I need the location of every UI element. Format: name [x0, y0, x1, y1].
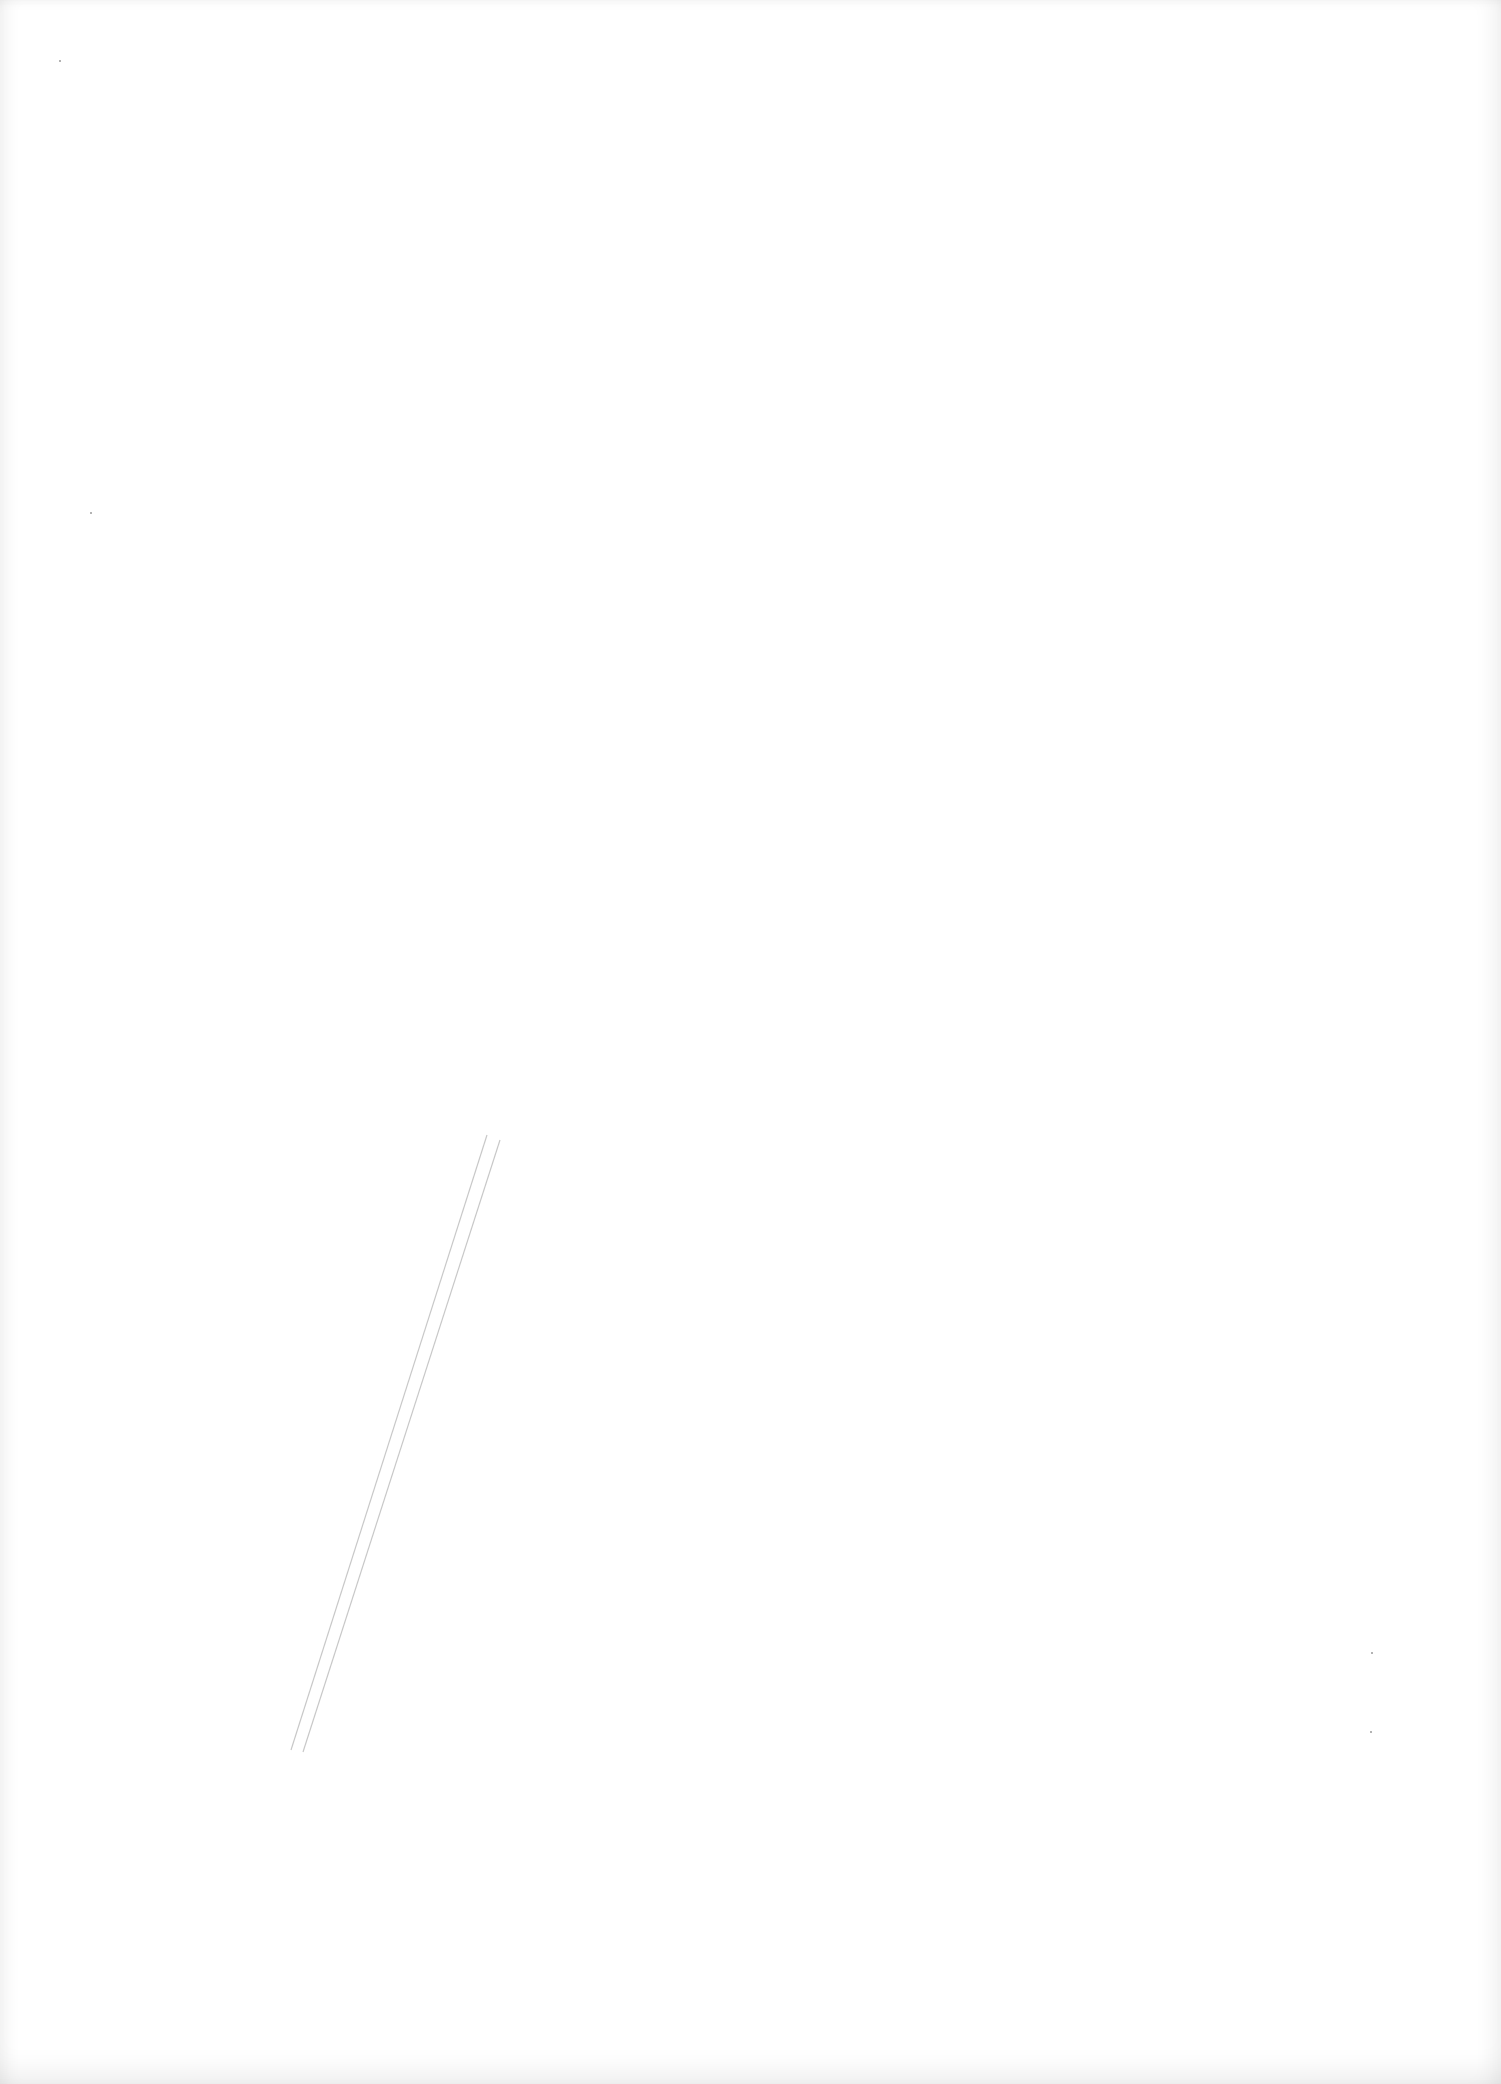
- speck: [1370, 1731, 1372, 1733]
- diagonal-line: [303, 1140, 500, 1752]
- speck: [59, 60, 61, 62]
- speck: [1371, 1652, 1373, 1654]
- diagonal-line: [291, 1135, 487, 1750]
- scanned-page: [0, 0, 1501, 2084]
- speck: [90, 512, 92, 514]
- pencil-lines: [0, 0, 1501, 2084]
